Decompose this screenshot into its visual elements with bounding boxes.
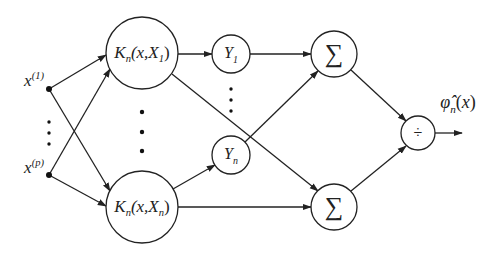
y-label-n: Yn [224, 146, 238, 165]
y-base: Y [224, 145, 233, 162]
edge-xp-to-k1 [49, 69, 110, 175]
y-base: Y [224, 44, 233, 61]
sum-symbol-top: ∑ [325, 41, 344, 67]
ellipsis-dot-kernels [140, 130, 144, 134]
output-arg: (x) [456, 92, 476, 112]
output-base: φ̂ [440, 92, 450, 112]
kernel-K: K [114, 197, 125, 216]
kernel-label-1: Kn(x,X1) [114, 44, 169, 65]
input-base: x [24, 71, 32, 90]
kernel-args-close: ) [164, 43, 170, 62]
output-label: φ̂n(x) [440, 93, 476, 115]
edge-kn-to-yn [173, 165, 215, 189]
kernel-label-n: Kn(x,Xn) [114, 198, 169, 219]
sum-symbol-bottom: ∑ [325, 194, 344, 220]
kernel-args-close: ) [164, 197, 170, 216]
edge-x1-to-kn [49, 89, 110, 191]
input-node-xp [46, 172, 52, 178]
input-label-x1: x(1) [24, 71, 44, 89]
input-sup: (1) [32, 70, 44, 81]
y-label-1: Y1 [224, 45, 238, 64]
ellipsis-dot-kernels [140, 149, 144, 153]
edge-yn-to-sum_top [245, 71, 318, 142]
input-sup: (p) [32, 157, 44, 168]
divide-symbol: ÷ [414, 125, 423, 141]
input-base: x [24, 158, 32, 177]
edge-sum_bottom-to-divide [351, 146, 406, 191]
y-sub: 1 [233, 54, 238, 65]
input-label-xp: x(p) [24, 158, 44, 176]
edge-sum_top-to-divide [351, 70, 406, 121]
ellipsis-dot-inputs [47, 131, 50, 134]
ellipsis-dot-inputs [47, 120, 50, 123]
ellipsis-dot-ys [229, 98, 232, 101]
ellipsis-dot-inputs [47, 142, 50, 145]
ellipsis-dot-ys [229, 109, 232, 112]
y-sub: n [233, 155, 238, 166]
edge-x1-to-k1 [49, 55, 106, 89]
kernel-args: (x,X [131, 43, 159, 62]
edge-xp-to-kn [49, 175, 106, 206]
input-node-x1 [46, 86, 52, 92]
edges [49, 54, 462, 207]
ellipsis-dot-ys [229, 87, 232, 90]
kernel-K: K [114, 43, 125, 62]
ellipsis-dot-kernels [140, 110, 144, 114]
kernel-args: (x,X [131, 197, 159, 216]
